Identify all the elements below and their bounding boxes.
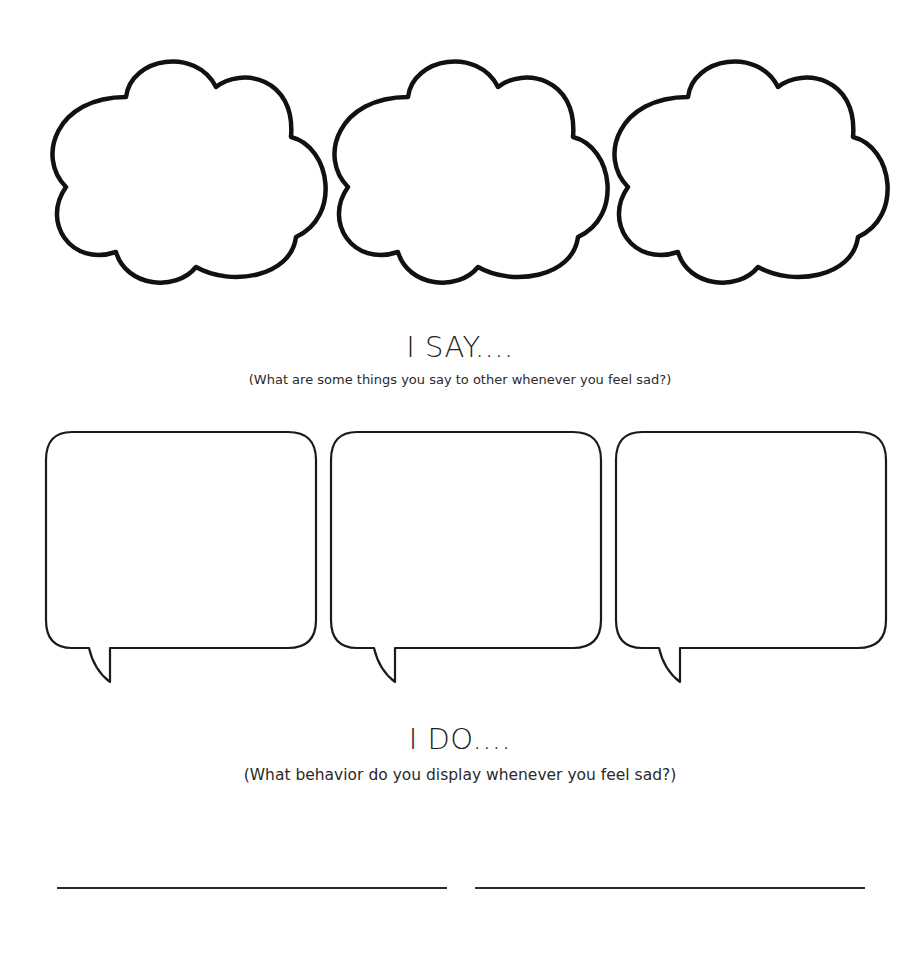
speech-bubble-shape-icon <box>614 430 888 686</box>
speech-bubble-2[interactable] <box>329 430 603 686</box>
speech-bubble-3[interactable] <box>614 430 888 686</box>
cloud-shape-icon <box>46 42 326 287</box>
say-heading: I SAY.... <box>0 330 920 364</box>
do-heading: I DO.... <box>0 722 920 756</box>
cloud-shape-icon <box>328 42 608 287</box>
thought-cloud-2[interactable] <box>328 42 608 287</box>
say-prompt: (What are some things you say to other w… <box>0 372 920 387</box>
cloud-shape-icon <box>608 42 888 287</box>
answer-line-1[interactable] <box>57 887 447 889</box>
answer-line-2[interactable] <box>475 887 865 889</box>
speech-bubble-1[interactable] <box>44 430 318 686</box>
thought-cloud-3[interactable] <box>608 42 888 287</box>
thought-cloud-1[interactable] <box>46 42 326 287</box>
speech-bubble-shape-icon <box>44 430 318 686</box>
speech-bubble-shape-icon <box>329 430 603 686</box>
do-prompt: (What behavior do you display whenever y… <box>0 766 920 784</box>
